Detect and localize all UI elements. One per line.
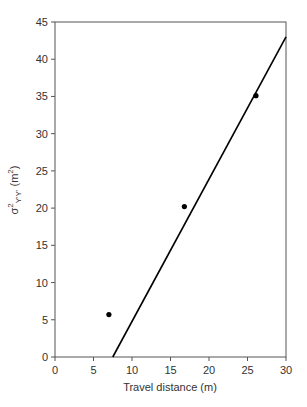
x-tick-label: 20 bbox=[203, 364, 215, 376]
plot-frame bbox=[55, 22, 286, 357]
y-tick-label: 20 bbox=[36, 202, 48, 214]
y-tick-label: 30 bbox=[36, 128, 48, 140]
x-tick-label: 0 bbox=[52, 364, 58, 376]
x-tick-label: 10 bbox=[126, 364, 138, 376]
y-tick-label: 40 bbox=[36, 53, 48, 65]
y-axis-label: σ2Y'Y' (m2) bbox=[6, 166, 23, 215]
x-tick-label: 25 bbox=[241, 364, 253, 376]
y-tick-label: 35 bbox=[36, 90, 48, 102]
y-tick-label: 25 bbox=[36, 165, 48, 177]
y-axis-ticks: 051015202530354045 bbox=[36, 16, 55, 363]
x-tick-label: 15 bbox=[164, 364, 176, 376]
data-point bbox=[106, 312, 111, 317]
y-tick-label: 10 bbox=[36, 277, 48, 289]
y-tick-label: 0 bbox=[42, 351, 48, 363]
x-axis-ticks: 051015202530 bbox=[52, 357, 292, 376]
data-points bbox=[106, 93, 258, 317]
y-tick-label: 45 bbox=[36, 16, 48, 28]
fit-line bbox=[113, 37, 286, 357]
y-tick-label: 15 bbox=[36, 239, 48, 251]
data-point bbox=[182, 204, 187, 209]
y-tick-label: 5 bbox=[42, 314, 48, 326]
x-tick-label: 5 bbox=[90, 364, 96, 376]
data-point bbox=[253, 93, 258, 98]
scatter-chart: 051015202530354045 051015202530 Travel d… bbox=[0, 0, 307, 407]
x-tick-label: 30 bbox=[280, 364, 292, 376]
x-axis-label: Travel distance (m) bbox=[123, 381, 217, 393]
